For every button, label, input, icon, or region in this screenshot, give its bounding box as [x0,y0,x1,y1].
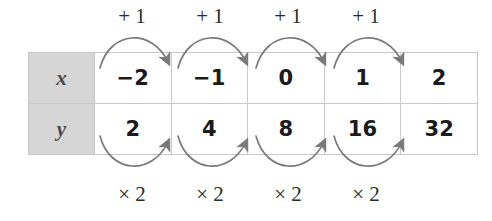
row-header-x: x [29,53,95,104]
cell-x-3-value: 0 [279,66,294,90]
cell-y-1-value: 2 [125,117,140,141]
cell-y-4: 16 [324,104,401,155]
function-table: x −2 −1 0 1 2 y 2 [28,52,478,155]
cell-y-3: 8 [248,104,325,155]
bottom-operation-label-4: × 2 [326,182,406,207]
bottom-operation-label-2: × 2 [170,182,250,207]
cell-x-4-value: 1 [355,66,370,90]
table-row-y: y 2 4 8 16 32 [29,104,478,155]
cell-x-5-value: 2 [432,66,447,90]
cell-x-2: −1 [171,53,248,104]
cell-y-5-value: 32 [424,117,454,141]
cell-x-1-value: −2 [116,66,149,90]
row-header-y-label: y [57,117,66,141]
cell-y-5: 32 [401,104,478,155]
bottom-operation-label-1: × 2 [92,182,172,207]
cell-x-5: 2 [401,53,478,104]
top-operation-label-2: + 1 [170,4,250,29]
top-operation-label-3: + 1 [248,4,328,29]
cell-y-3-value: 8 [279,117,294,141]
figure-canvas: + 1 + 1 + 1 + 1 × 2 × 2 × 2 × 2 x −2 −1 … [0,0,492,221]
cell-x-4: 1 [324,53,401,104]
row-header-y: y [29,104,95,155]
top-operation-label-4: + 1 [326,4,406,29]
cell-y-4-value: 16 [348,117,378,141]
cell-x-1: −2 [95,53,172,104]
cell-y-1: 2 [95,104,172,155]
cell-y-2: 4 [171,104,248,155]
cell-x-3: 0 [248,53,325,104]
row-header-x-label: x [56,66,67,90]
cell-x-2-value: −1 [193,66,226,90]
top-operation-label-1: + 1 [92,4,172,29]
cell-y-2-value: 4 [202,117,217,141]
table-row-x: x −2 −1 0 1 2 [29,53,478,104]
bottom-operation-label-3: × 2 [248,182,328,207]
